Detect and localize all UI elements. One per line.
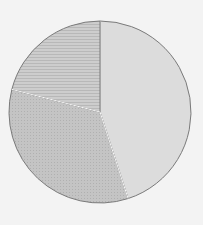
- pie-slices: [9, 21, 191, 203]
- pie-chart: [0, 0, 203, 225]
